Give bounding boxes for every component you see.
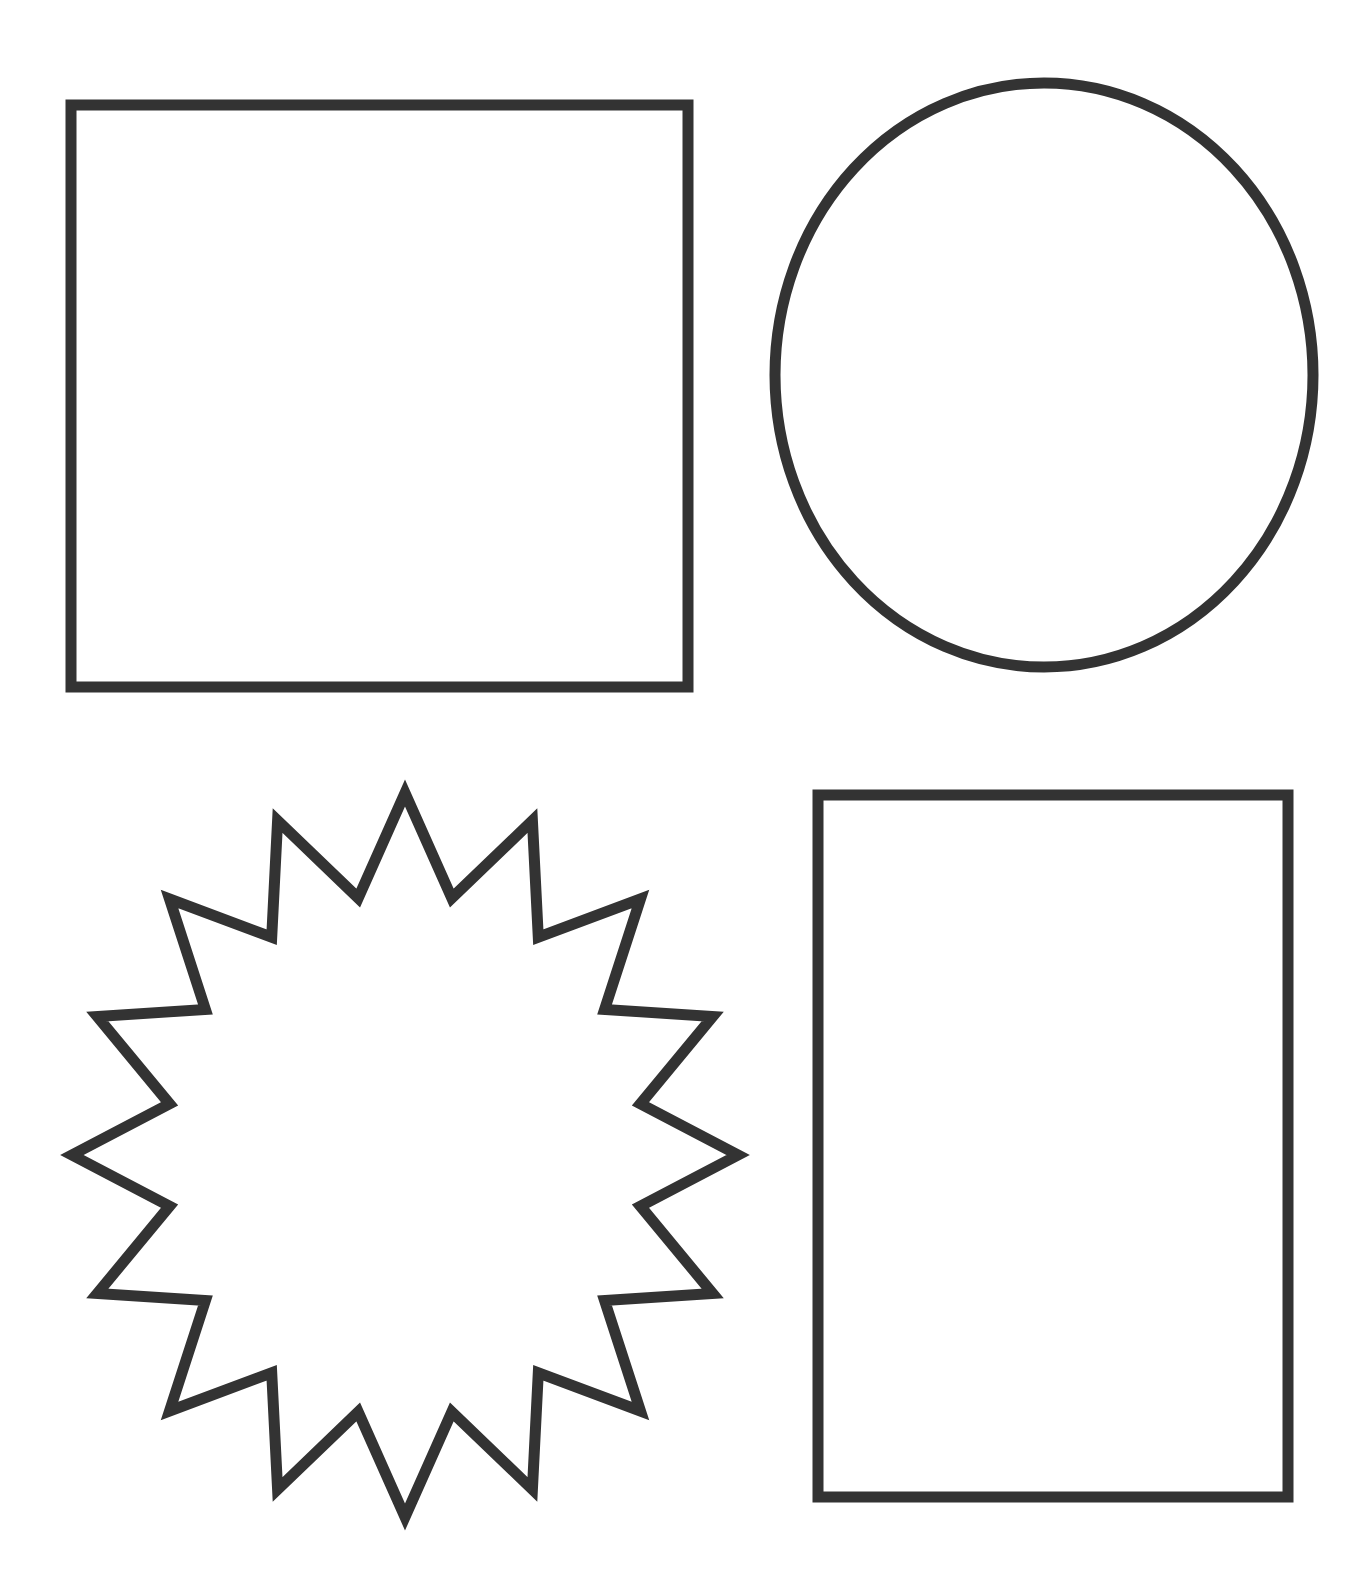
square-shape [71, 105, 688, 687]
starburst-shape [72, 793, 738, 1517]
tall-rectangle-shape [818, 795, 1288, 1497]
circle-shape [775, 83, 1313, 667]
shapes-canvas [0, 0, 1366, 1581]
